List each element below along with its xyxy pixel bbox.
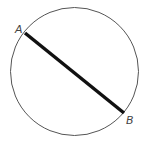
chord-ab xyxy=(25,33,124,113)
point-label-a: A xyxy=(14,23,23,36)
circle-chord-diagram: A B xyxy=(0,0,144,146)
point-label-b: B xyxy=(126,114,134,127)
